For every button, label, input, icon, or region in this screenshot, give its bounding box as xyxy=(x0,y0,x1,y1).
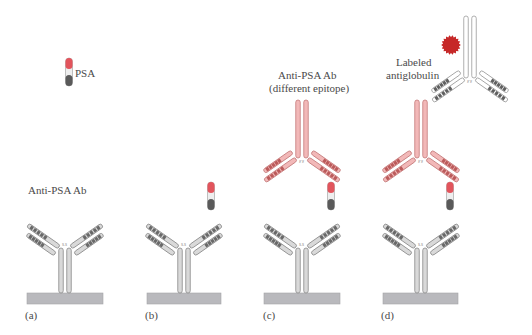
solid-phase-plate-b xyxy=(147,293,221,304)
detection-ab-caption-line1: Anti-PSA Ab xyxy=(278,69,336,82)
psa-antigen-b xyxy=(208,182,215,210)
capture-antibody-b: S-S xyxy=(145,223,223,293)
anti-psa-ab-caption: Anti-PSA Ab xyxy=(28,184,86,197)
capture-antibody-d: S-S xyxy=(382,223,460,293)
svg-text:S-S: S-S xyxy=(62,243,67,247)
solid-phase-plate-a xyxy=(27,293,103,304)
diagram-canvas: S-SS-SS-SS-SS-SS-SS-S xyxy=(0,0,532,335)
svg-text:S-S: S-S xyxy=(299,243,304,247)
psa-antigen-c xyxy=(328,182,335,210)
panel-label-d: (d) xyxy=(381,309,394,321)
psa-legend-icon xyxy=(66,58,73,86)
antiglobulin-caption-line2: antiglobulin xyxy=(386,69,439,82)
svg-text:S-S: S-S xyxy=(418,243,423,247)
sandwich-elisa-diagram: S-SS-SS-SS-SS-SS-SS-S PSA Anti-PSA Ab An… xyxy=(0,0,532,335)
detection-ab-caption-line2: (different epitope) xyxy=(269,82,349,95)
panel-label-b: (b) xyxy=(145,309,158,321)
solid-phase-plate-d xyxy=(383,293,458,304)
solid-phase-plate-c xyxy=(264,293,340,304)
capture-antibody-a: S-S xyxy=(26,223,104,293)
labeled-antiglobulin-d: S-S xyxy=(431,16,509,103)
detection-antibody-d: S-S xyxy=(382,100,460,183)
psa-legend-label: PSA xyxy=(75,67,95,80)
svg-text:S-S: S-S xyxy=(299,159,304,163)
psa-antigen-d xyxy=(447,182,454,210)
svg-text:S-S: S-S xyxy=(181,243,186,247)
panel-label-a: (a) xyxy=(25,309,37,321)
svg-text:S-S: S-S xyxy=(418,159,423,163)
enzyme-label-icon xyxy=(441,35,461,54)
panel-label-c: (c) xyxy=(263,309,275,321)
detection-antibody-c: S-S xyxy=(263,100,341,183)
antiglobulin-caption-line1: Labeled xyxy=(396,56,431,69)
svg-text:S-S: S-S xyxy=(467,79,472,83)
capture-antibody-c: S-S xyxy=(263,223,341,293)
